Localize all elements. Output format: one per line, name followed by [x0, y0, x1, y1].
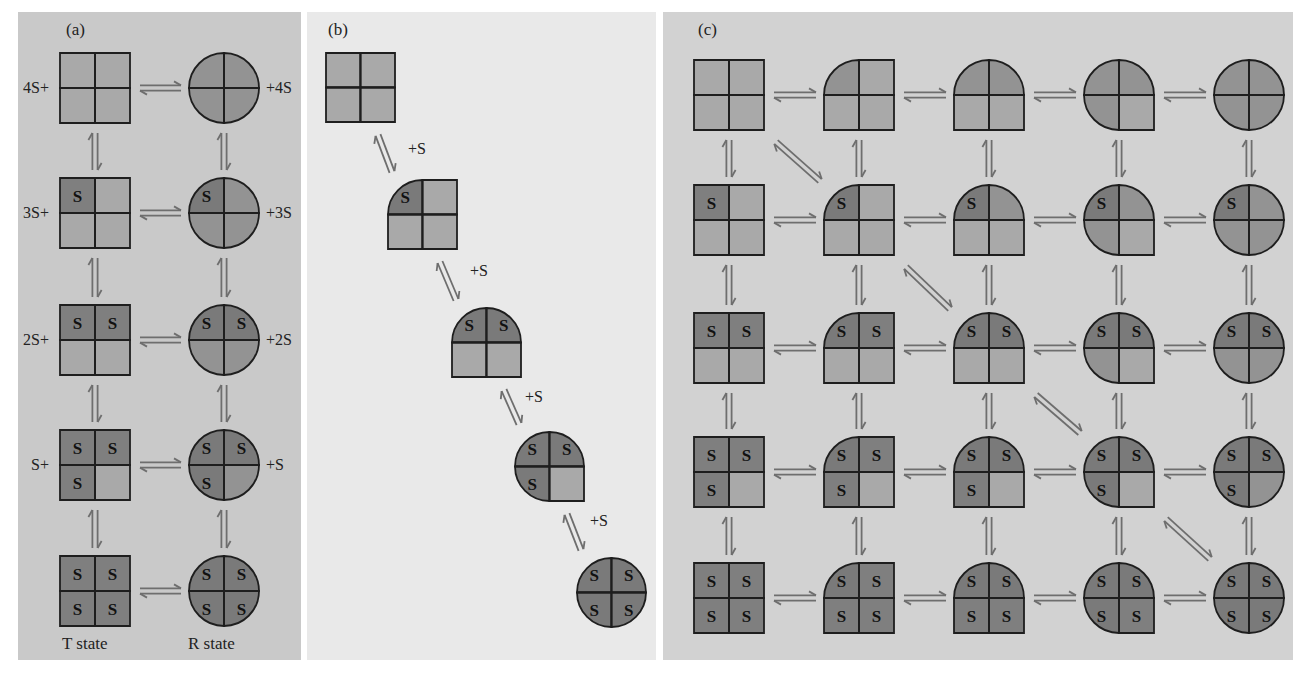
equilibrium-arrow-icon — [437, 261, 460, 301]
sequential-state-1: S — [388, 180, 457, 249]
equilibrium-arrow-icon — [563, 513, 584, 551]
substrate-label: S — [1227, 322, 1236, 341]
substrate-label: S — [837, 607, 846, 626]
r-row-label-4s: +4S — [266, 79, 292, 97]
panel-b-label: (b) — [328, 20, 348, 40]
r-subunit — [1214, 348, 1249, 383]
r-subunit — [1084, 348, 1119, 383]
r-row-label-3s: +3S — [266, 204, 292, 222]
panel-c-label: (c) — [698, 20, 717, 40]
t-subunit — [989, 95, 1024, 130]
r-subunit — [954, 60, 989, 95]
equilibrium-arrow-icon — [722, 265, 735, 305]
t-subunit — [423, 215, 458, 250]
equilibrium-arrow-icon — [140, 458, 181, 471]
equilibrium-arrow-icon — [982, 140, 995, 177]
equilibrium-arrow-icon — [1034, 88, 1076, 101]
r-subunit — [1084, 95, 1119, 130]
substrate-label: S — [707, 481, 716, 500]
equilibrium-arrow-icon — [774, 213, 816, 226]
r-subunit — [1249, 95, 1284, 130]
substrate-label: S — [1262, 322, 1271, 341]
substrate-label: S — [967, 194, 976, 213]
t-subunit — [326, 88, 361, 123]
substrate-label: S — [742, 572, 751, 591]
substrate-label: S — [73, 439, 82, 458]
t-state-tetramer: SSSS — [60, 556, 130, 626]
equilibrium-arrow-icon — [982, 517, 995, 555]
t-state-tetramer: SSS — [60, 430, 130, 500]
substrate-label: S — [401, 188, 410, 207]
state-r4-s4: SSSS — [1214, 563, 1284, 633]
t-subunit — [388, 215, 423, 250]
r-subunit — [189, 213, 224, 248]
t-subunit — [824, 95, 859, 130]
panel-a-label: (a) — [66, 20, 85, 40]
equilibrium-arrow-icon — [88, 510, 101, 548]
t-subunit — [1119, 220, 1154, 255]
sequential-state-0 — [326, 53, 395, 122]
substrate-label: S — [202, 565, 211, 584]
r-subunit — [1249, 348, 1284, 383]
t-subunit — [487, 343, 522, 378]
equilibrium-arrow-icon — [1034, 213, 1076, 226]
substrate-label: S — [707, 446, 716, 465]
substrate-label: S — [465, 316, 474, 335]
substrate-label: S — [202, 439, 211, 458]
t-subunit — [95, 88, 130, 123]
r-subunit — [224, 340, 259, 375]
substrate-label: S — [108, 600, 117, 619]
substrate-label: S — [528, 475, 537, 494]
equilibrium-arrow-icon — [904, 591, 946, 604]
panel-b-step-label-1: +S — [408, 140, 426, 158]
r-subunit — [1249, 60, 1284, 95]
equilibrium-arrow-icon — [217, 385, 230, 422]
equilibrium-arrow-icon — [140, 584, 181, 597]
substrate-label: S — [1227, 607, 1236, 626]
r-subunit — [1249, 185, 1284, 220]
substrate-label: S — [1227, 446, 1236, 465]
t-subunit — [729, 95, 764, 130]
substrate-label: S — [108, 314, 117, 333]
substrate-label: S — [837, 194, 846, 213]
substrate-label: S — [624, 566, 633, 585]
r-subunit — [224, 465, 259, 500]
t-state-tetramer: S — [60, 178, 130, 248]
equilibrium-arrow-icon — [774, 591, 816, 604]
substrate-label: S — [837, 481, 846, 500]
state-r1-s0 — [824, 60, 894, 130]
t-row-label-3s: 3S+ — [23, 204, 49, 222]
equilibrium-arrow-icon — [501, 389, 522, 425]
diagonal-equilibrium-arrow-icon — [774, 140, 821, 183]
substrate-label: S — [742, 607, 751, 626]
r-row-label-1s: +S — [266, 456, 284, 474]
r-subunit — [989, 185, 1024, 220]
equilibrium-arrow-icon — [140, 206, 181, 219]
substrate-label: S — [1097, 481, 1106, 500]
equilibrium-arrow-icon — [852, 393, 865, 429]
state-r2-s4: SSSS — [954, 563, 1024, 633]
substrate-label: S — [1132, 322, 1141, 341]
substrate-label: S — [967, 322, 976, 341]
state-r0-s0 — [694, 60, 764, 130]
substrate-label: S — [237, 439, 246, 458]
substrate-label: S — [707, 194, 716, 213]
r-subunit — [824, 60, 859, 95]
r-state-tetramer: SSS — [189, 430, 259, 500]
t-subunit — [95, 53, 130, 88]
t-subunit — [694, 220, 729, 255]
state-r2-s3: SSS — [954, 437, 1024, 507]
t-subunit — [859, 220, 894, 255]
equilibrium-arrow-icon — [1112, 265, 1125, 305]
state-r3-s3: SSS — [1084, 437, 1154, 507]
substrate-label: S — [837, 446, 846, 465]
equilibrium-arrow-icon — [1242, 393, 1255, 429]
r-subunit — [189, 340, 224, 375]
t-subunit — [954, 95, 989, 130]
r-subunit — [1119, 185, 1154, 220]
state-r3-s1: S — [1084, 185, 1154, 255]
state-r3-s2: SS — [1084, 313, 1154, 383]
equilibrium-arrow-icon — [774, 341, 816, 354]
panel-b-step-label-4: +S — [590, 512, 608, 530]
state-r3-s4: SSSS — [1084, 563, 1154, 633]
